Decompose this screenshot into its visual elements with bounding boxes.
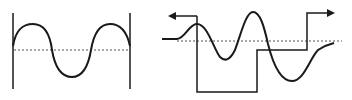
diagram-canvas: [0, 0, 352, 100]
right-figure: [162, 12, 342, 92]
left-figure: [13, 13, 130, 89]
waveform-diagram: [0, 0, 352, 100]
damped-wave: [162, 12, 334, 81]
